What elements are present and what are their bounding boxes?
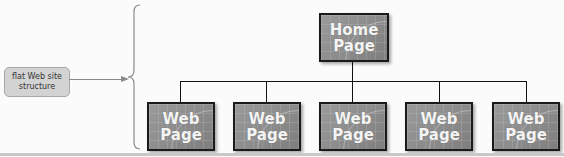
node-line-1: Web	[508, 111, 545, 127]
node-line-2: Page	[418, 127, 460, 143]
node-line-1: Web	[421, 111, 458, 127]
home-page-node: Home Page	[319, 13, 389, 62]
node-line-1: Web	[335, 111, 372, 127]
web-page-node-3: Web Page	[319, 102, 387, 151]
home-line-2: Page	[333, 38, 375, 54]
web-page-node-2: Web Page	[233, 102, 301, 151]
horizontal-connector	[180, 81, 527, 82]
node-line-1: Web	[163, 111, 200, 127]
page-connector-2	[266, 81, 267, 102]
page-connector-3	[352, 81, 353, 102]
structure-label: flat Web site structure	[4, 67, 70, 97]
node-line-2: Page	[160, 127, 202, 143]
curly-brace-icon	[128, 4, 142, 150]
page-connector-5	[526, 81, 527, 102]
node-line-1: Web	[249, 111, 286, 127]
node-line-2: Page	[332, 127, 374, 143]
label-line-2: structure	[19, 82, 55, 92]
bottom-rule	[0, 153, 564, 156]
web-page-node-5: Web Page	[492, 102, 560, 151]
label-line-1: flat Web site	[12, 72, 62, 82]
node-line-2: Page	[246, 127, 288, 143]
page-connector-4	[439, 81, 440, 102]
home-line-1: Home	[330, 22, 379, 38]
home-connector	[352, 60, 353, 81]
web-page-node-1: Web Page	[147, 102, 215, 151]
page-connector-1	[180, 81, 181, 102]
node-line-2: Page	[505, 127, 547, 143]
arrow-line	[69, 79, 125, 80]
web-page-node-4: Web Page	[405, 102, 473, 151]
